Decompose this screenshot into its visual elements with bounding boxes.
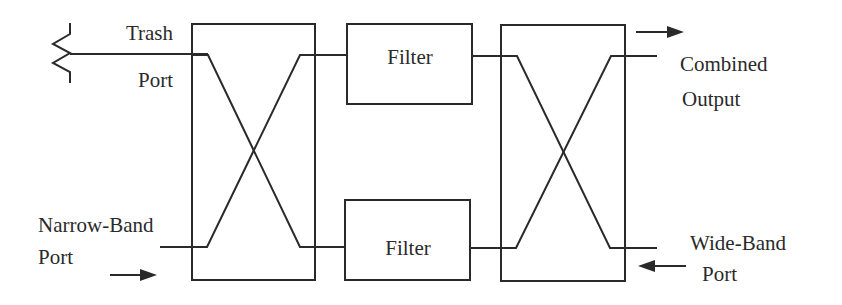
right-coupler-cross-down — [501, 56, 657, 248]
filter-combiner-diagram: Filter Filter Trash Port Narrow-Band Por… — [0, 0, 842, 305]
wide-port-label: Port — [702, 262, 737, 286]
filter-bottom-label: Filter — [385, 236, 431, 260]
narrow-port-label: Port — [38, 245, 73, 269]
filter-bottom: Filter — [345, 200, 470, 280]
wide-band-label: Wide-Band — [690, 231, 786, 255]
trash-label: Trash — [126, 21, 174, 45]
left-coupler-cross-up — [160, 55, 315, 247]
filter-top: Filter — [347, 24, 472, 104]
filter-top-label: Filter — [387, 45, 433, 69]
right-coupler-cross-up — [501, 56, 657, 248]
narrow-band-input-arrow — [110, 269, 157, 281]
combined-output-arrow — [636, 26, 684, 38]
output-label: Output — [682, 87, 741, 111]
resistor-icon — [53, 23, 70, 83]
trash-port-label: Port — [138, 68, 173, 92]
narrow-band-label: Narrow-Band — [38, 213, 154, 237]
combined-label: Combined — [680, 52, 768, 76]
wide-band-input-arrow — [638, 260, 686, 272]
